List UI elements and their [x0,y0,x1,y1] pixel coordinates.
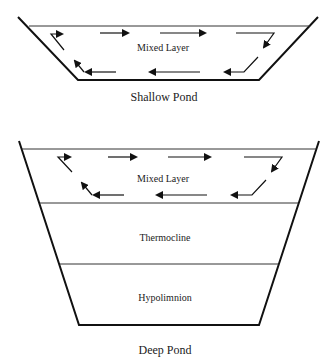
hypolimnion-label: Hypolimnion [138,292,191,303]
shallow-mixed-layer-label: Mixed Layer [137,42,189,53]
deep-mixed-layer-label: Mixed Layer [137,173,189,184]
shallow-pond-caption: Shallow Pond [130,90,197,105]
thermocline-label: Thermocline [139,232,190,243]
deep-pond-caption: Deep Pond [139,343,192,358]
